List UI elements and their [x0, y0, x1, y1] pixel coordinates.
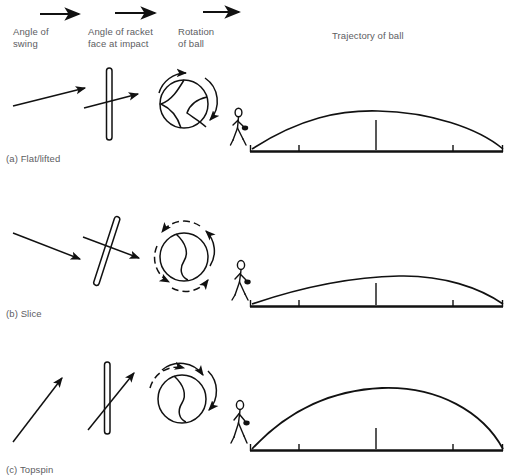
row-c-court: [250, 428, 503, 451]
row-c-group: [13, 362, 503, 451]
row-b-ball-icon: [160, 233, 208, 281]
row-caption-c: (c) Topspin: [6, 464, 53, 475]
row-b-swing-arrow: [13, 233, 80, 259]
header-label-rotation: Rotation of ball: [178, 26, 214, 49]
row-b-racket-icon: [93, 216, 120, 286]
row-a-ball-icon: [160, 80, 208, 128]
row-b-group: [13, 216, 503, 307]
row-c-player-figure: [231, 401, 250, 444]
row-caption-b: (b) Slice: [6, 308, 42, 320]
row-a-racket-icon: [107, 68, 113, 140]
row-c-swing-arrow: [13, 378, 62, 442]
row-c-trajectory-curve: [252, 388, 503, 449]
header-arrow-group: [40, 12, 239, 14]
tennis-stroke-figure: [0, 0, 514, 475]
row-c-ball-icon: [158, 375, 206, 423]
row-b-player-figure: [232, 261, 251, 301]
row-a-court: [250, 120, 503, 152]
row-b-court: [250, 283, 503, 307]
row-a-trajectory-curve: [252, 111, 503, 149]
row-b-trajectory-curve: [252, 276, 503, 304]
row-c-impact-arrow: [88, 373, 134, 430]
header-label-racket-face: Angle of racket face at impact: [88, 26, 153, 49]
header-label-trajectory: Trajectory of ball: [332, 30, 404, 42]
row-caption-a: (a) Flat/lifted: [6, 153, 60, 165]
header-label-swing: Angle of swing: [13, 26, 49, 49]
row-c-racket-icon: [105, 362, 111, 434]
row-a-group: [13, 68, 503, 152]
row-a-player-figure: [231, 108, 249, 145]
row-a-swing-arrow: [13, 88, 85, 106]
